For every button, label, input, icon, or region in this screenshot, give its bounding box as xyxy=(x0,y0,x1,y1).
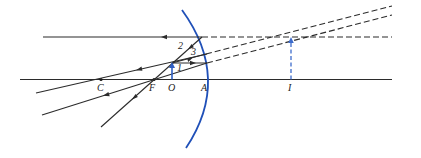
virtual-ray-middle xyxy=(207,15,392,63)
ray-through-center xyxy=(36,54,207,93)
arrow-icon xyxy=(103,92,110,96)
image-arrowhead-icon xyxy=(288,37,294,43)
label-I: I xyxy=(287,82,292,93)
ray-diagram: C F O A I 2 3 1 xyxy=(0,0,421,158)
arrow-icon xyxy=(161,35,167,39)
arrow-icon xyxy=(136,67,142,71)
ray-lower xyxy=(42,63,207,115)
virtual-ray-upper xyxy=(206,6,392,54)
label-O: O xyxy=(168,82,175,93)
ray-number-1: 1 xyxy=(177,62,182,73)
ray-number-3: 3 xyxy=(190,46,196,57)
ray-number-2: 2 xyxy=(178,40,183,51)
label-F: F xyxy=(148,82,156,93)
label-A: A xyxy=(200,82,208,93)
arrow-icon xyxy=(190,61,196,65)
label-C: C xyxy=(97,82,104,93)
